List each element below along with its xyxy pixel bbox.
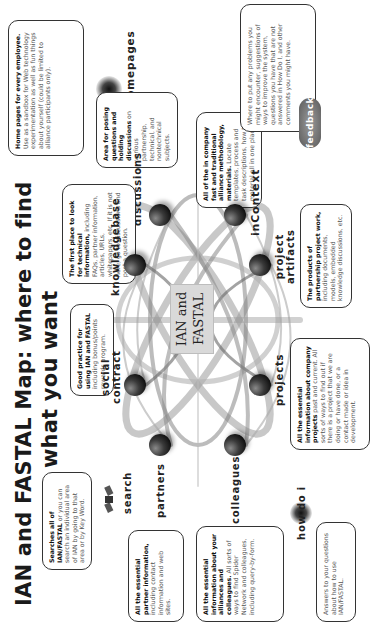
homepages-desc-bold: Home pages for every employee. (14, 34, 21, 149)
center-hub-line2: FASTAL (190, 285, 207, 353)
knowledgebase-node-ball[interactable] (124, 254, 146, 276)
project-artifacts-label-line2: artifacts (285, 229, 296, 284)
partners-desc: including contact information and web si… (149, 551, 171, 615)
social-contract-label-line2: contract (111, 351, 122, 405)
discussions-node-ball[interactable] (149, 204, 171, 226)
colleagues-node-ball[interactable] (224, 434, 246, 456)
partners-node-ball[interactable] (149, 434, 171, 456)
colleagues-description-bubble: All the essential information about your… (196, 526, 284, 622)
satellite-search-icon[interactable] (98, 484, 120, 514)
project-artifacts-description-bubble: The products of partnership project work… (300, 204, 352, 308)
feedback-button[interactable]: feedback (299, 98, 321, 148)
social-contract-link[interactable]: social contract (100, 351, 122, 405)
projects-link[interactable]: projects (274, 354, 285, 406)
search-description-bubble: Searches all of IAN/FASTAL or you can se… (42, 472, 92, 570)
project-artifacts-desc: including documents, models, embedded kn… (321, 215, 343, 301)
knowledgebase-link[interactable]: knowledgebase (110, 198, 121, 296)
partners-link[interactable]: partners (155, 463, 166, 518)
incontext-node-ball[interactable] (224, 204, 246, 226)
howdoi-desc: Answers to your questions about how to u… (322, 533, 344, 615)
social-contract-node-ball[interactable] (124, 374, 146, 396)
howdoi-link[interactable]: how do i (296, 486, 307, 540)
homepages-desc: Use as a sandbox for Web technology expe… (22, 32, 52, 149)
ian-fastal-map-diagram: IAN and FASTAL Map: where to find what y… (0, 0, 390, 636)
project-artifacts-link[interactable]: project artifacts (274, 229, 296, 284)
projects-node-ball[interactable] (249, 374, 271, 396)
center-hub-ian-fastal: IAN and FASTAL (170, 284, 214, 354)
knowledgebase-desc: including FAQs, partner information, art… (83, 192, 128, 277)
projects-desc: past and current. All sorts of ways to f… (311, 350, 356, 443)
social-contract-label-line1: social (100, 351, 111, 405)
project-artifacts-node-ball[interactable] (249, 254, 271, 276)
search-link[interactable]: search (122, 472, 133, 514)
colleagues-link[interactable]: colleagues (230, 456, 241, 524)
partners-desc-bold: All the essential partner information, (134, 543, 149, 615)
homepages-description-bubble: Home pages for every employee. Use as a … (8, 20, 84, 156)
project-artifacts-label-line1: project (274, 229, 285, 284)
social-contract-desc-bold: Good practice for using IAN and FASTAL (76, 313, 91, 389)
center-hub-line1: IAN and (173, 285, 190, 353)
project-artifacts-desc-bold: The products of partnership project work… (306, 212, 321, 301)
howdoi-description-bubble: Answers to your questions about how to u… (316, 522, 356, 622)
incontext-link[interactable]: inContext (250, 169, 261, 236)
projects-description-bubble: All the essential information about comp… (290, 338, 370, 450)
partners-description-bubble: All the essential partner information, i… (128, 530, 184, 622)
feedback-desc: Where to put any problems you might enco… (246, 24, 291, 125)
